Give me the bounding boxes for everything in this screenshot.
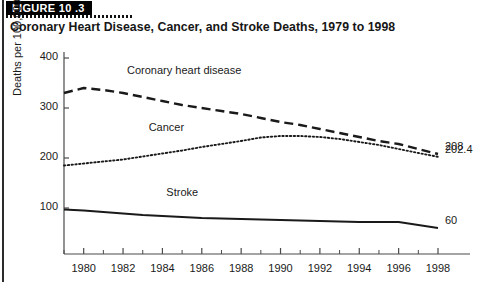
y-axis-tick-label: 200 xyxy=(30,150,58,162)
series-label-0: Coronary heart disease xyxy=(127,64,241,76)
series-end-value-2: 60 xyxy=(445,214,457,226)
chart-plot-area: Deaths per 100,000a xyxy=(0,0,493,282)
x-axis-tick-label: 1998 xyxy=(418,262,458,274)
x-axis-tick-label: 1990 xyxy=(261,262,301,274)
series-label-2: Stroke xyxy=(166,186,198,198)
series-label-1: Cancer xyxy=(149,121,184,133)
x-axis-tick-label: 1982 xyxy=(103,262,143,274)
x-axis-tick-label: 1988 xyxy=(221,262,261,274)
series-line-0 xyxy=(64,88,438,154)
x-axis-tick-label: 1992 xyxy=(300,262,340,274)
x-axis-tick-label: 1980 xyxy=(64,262,104,274)
x-axis-tick-label: 1986 xyxy=(182,262,222,274)
x-axis-tick-label: 1996 xyxy=(379,262,419,274)
y-axis-tick-label: 400 xyxy=(30,50,58,62)
y-axis-tick-label: 100 xyxy=(30,200,58,212)
x-axis-tick-label: 1984 xyxy=(142,262,182,274)
chart-svg xyxy=(0,0,493,282)
series-line-2 xyxy=(64,210,438,229)
x-axis-tick-label: 1994 xyxy=(339,262,379,274)
figure-container: FIGURE 10 .3 Coronary Heart Disease, Can… xyxy=(0,0,493,282)
series-end-value-1: 202.4 xyxy=(445,143,473,155)
y-axis-tick-label: 300 xyxy=(30,100,58,112)
